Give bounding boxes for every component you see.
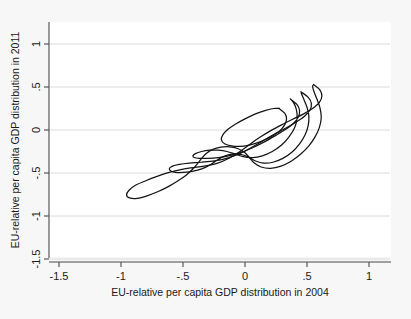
x-tick-label--.5: -.5 (177, 270, 190, 282)
chart-screenshot: -1.5-1-.50.51 -1.5-1-.50.51 EU-relative … (0, 0, 411, 319)
x-axis-ticks (59, 262, 369, 267)
x-tick-label-1: 1 (366, 270, 372, 282)
y-axis-tick-labels: -1.5-1-.50.51 (30, 41, 42, 269)
y-axis-title: EU-relative per capita GDP distribution … (9, 31, 21, 248)
y-tick-label-.5: .5 (30, 82, 42, 91)
x-tick-label--1: -1 (116, 270, 126, 282)
y-axis-ticks (44, 44, 49, 259)
x-tick-label-.5: .5 (302, 270, 311, 282)
y-tick-label--1: -1 (30, 211, 42, 221)
plot-area-background (49, 22, 391, 257)
x-axis-tick-labels: -1.5-1-.50.51 (50, 270, 373, 282)
x-tick-label--1.5: -1.5 (50, 270, 69, 282)
x-axis-title: EU-relative per capita GDP distribution … (111, 286, 329, 298)
x-tick-label-0: 0 (242, 270, 248, 282)
y-tick-label--.5: -.5 (30, 167, 42, 180)
y-tick-label--1.5: -1.5 (30, 250, 42, 269)
y-tick-label-0: 0 (30, 127, 42, 133)
contour-plot-svg: -1.5-1-.50.51 -1.5-1-.50.51 EU-relative … (0, 0, 411, 319)
y-tick-label-1: 1 (30, 41, 42, 47)
